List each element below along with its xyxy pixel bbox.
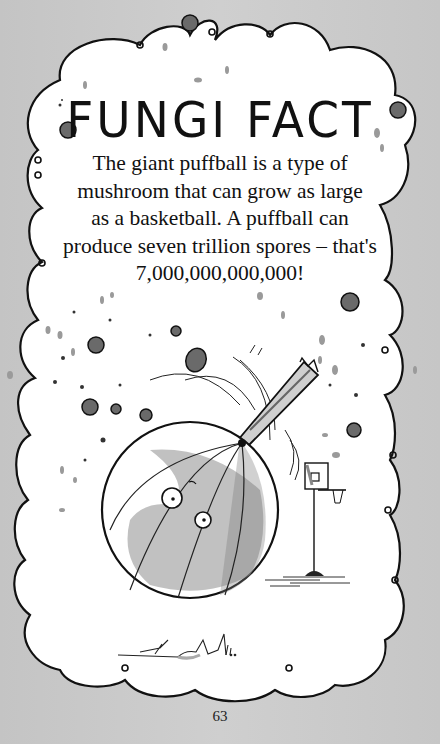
fact-line: mushroom that can grow as large: [50, 178, 390, 206]
fact-line: 7,000,000,000,000!: [50, 260, 390, 288]
page-title: FUNGI FACT: [0, 91, 440, 149]
fact-line: The giant puffball is a type of: [50, 150, 390, 178]
fact-line: produce seven trillion spores – that's: [50, 233, 390, 261]
fact-line: as a basketball. A puffball can: [50, 205, 390, 233]
book-page: FUNGI FACT The giant puffball is a type …: [0, 0, 440, 744]
fact-text: The giant puffball is a type of mushroom…: [50, 150, 390, 288]
giant-puffball: [102, 422, 278, 598]
page-number: 63: [0, 708, 440, 725]
